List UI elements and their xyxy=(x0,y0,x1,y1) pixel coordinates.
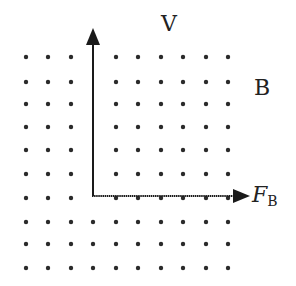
field-dot-icon xyxy=(69,125,73,129)
field-dot-icon xyxy=(24,196,28,200)
field-dot-icon xyxy=(159,80,163,84)
field-dot-icon xyxy=(24,125,28,129)
field-dot-icon xyxy=(181,266,185,270)
field-dot-icon xyxy=(69,148,73,152)
field-dot-icon xyxy=(181,102,185,106)
field-dots-out-of-page xyxy=(24,55,230,270)
field-dot-icon xyxy=(204,80,208,84)
field-label: B xyxy=(254,75,270,100)
field-dot-icon xyxy=(181,148,185,152)
field-dot-icon xyxy=(136,172,140,176)
field-dot-icon xyxy=(69,220,73,224)
field-dot-icon xyxy=(24,266,28,270)
field-dot-icon xyxy=(46,148,50,152)
field-dot-icon xyxy=(46,220,50,224)
velocity-arrowhead-icon xyxy=(86,28,100,45)
field-dot-icon xyxy=(226,220,230,224)
field-dot-icon xyxy=(46,196,50,200)
field-dot-icon xyxy=(46,172,50,176)
field-dot-icon xyxy=(159,55,163,59)
field-dot-icon xyxy=(24,242,28,246)
field-dot-icon xyxy=(159,125,163,129)
field-dot-icon xyxy=(46,102,50,106)
field-dot-icon xyxy=(69,266,73,270)
field-dot-icon xyxy=(136,80,140,84)
field-dot-icon xyxy=(114,220,118,224)
field-dot-icon xyxy=(69,55,73,59)
field-dot-icon xyxy=(24,80,28,84)
field-dot-icon xyxy=(46,242,50,246)
field-dot-icon xyxy=(226,172,230,176)
field-dot-icon xyxy=(181,55,185,59)
field-dot-icon xyxy=(24,102,28,106)
field-dot-icon xyxy=(69,196,73,200)
field-dot-icon xyxy=(24,220,28,224)
field-dot-icon xyxy=(181,125,185,129)
field-dot-icon xyxy=(136,220,140,224)
field-dot-icon xyxy=(226,55,230,59)
field-dot-icon xyxy=(114,80,118,84)
field-dot-icon xyxy=(24,172,28,176)
field-dot-icon xyxy=(159,148,163,152)
field-dot-icon xyxy=(181,80,185,84)
velocity-vector xyxy=(86,28,100,196)
field-dot-icon xyxy=(136,242,140,246)
force-vector xyxy=(92,189,250,203)
field-dot-icon xyxy=(159,172,163,176)
field-dot-icon xyxy=(159,220,163,224)
field-dot-icon xyxy=(69,80,73,84)
magnetic-field-diagram xyxy=(0,0,296,286)
field-dot-icon xyxy=(114,148,118,152)
field-dot-icon xyxy=(114,102,118,106)
velocity-label: V xyxy=(161,11,177,36)
field-dot-icon xyxy=(181,172,185,176)
field-dot-icon xyxy=(46,80,50,84)
field-dot-icon xyxy=(136,266,140,270)
field-dot-icon xyxy=(136,102,140,106)
field-dot-icon xyxy=(226,266,230,270)
field-dot-icon xyxy=(204,55,208,59)
field-dot-icon xyxy=(181,242,185,246)
field-dot-icon xyxy=(24,148,28,152)
field-dot-icon xyxy=(159,242,163,246)
force-arrowhead-icon xyxy=(233,189,250,203)
field-dot-icon xyxy=(204,266,208,270)
field-dot-icon xyxy=(114,242,118,246)
field-dot-icon xyxy=(46,125,50,129)
field-dot-icon xyxy=(46,266,50,270)
field-dot-icon xyxy=(204,172,208,176)
field-dot-icon xyxy=(69,172,73,176)
force-label: FB xyxy=(252,182,278,209)
field-dot-icon xyxy=(181,220,185,224)
field-dot-icon xyxy=(159,102,163,106)
field-dot-icon xyxy=(91,242,95,246)
field-dot-icon xyxy=(204,148,208,152)
field-dot-icon xyxy=(204,102,208,106)
field-dot-icon xyxy=(226,125,230,129)
field-dot-icon xyxy=(69,102,73,106)
field-dot-icon xyxy=(226,80,230,84)
force-label-subscript: B xyxy=(267,193,277,209)
field-dot-icon xyxy=(91,266,95,270)
field-dot-icon xyxy=(114,266,118,270)
field-dot-icon xyxy=(114,55,118,59)
field-dot-icon xyxy=(226,242,230,246)
field-dot-icon xyxy=(24,55,28,59)
field-dot-icon xyxy=(226,102,230,106)
field-dot-icon xyxy=(69,242,73,246)
field-dot-icon xyxy=(136,148,140,152)
field-dot-icon xyxy=(114,172,118,176)
field-dot-icon xyxy=(159,266,163,270)
field-dot-icon xyxy=(226,148,230,152)
field-dot-icon xyxy=(136,125,140,129)
field-dot-icon xyxy=(136,55,140,59)
field-dot-icon xyxy=(204,242,208,246)
field-dot-icon xyxy=(91,220,95,224)
field-dot-icon xyxy=(204,220,208,224)
field-dot-icon xyxy=(46,55,50,59)
force-label-main: F xyxy=(252,182,267,207)
field-dot-icon xyxy=(114,125,118,129)
field-dot-icon xyxy=(204,125,208,129)
